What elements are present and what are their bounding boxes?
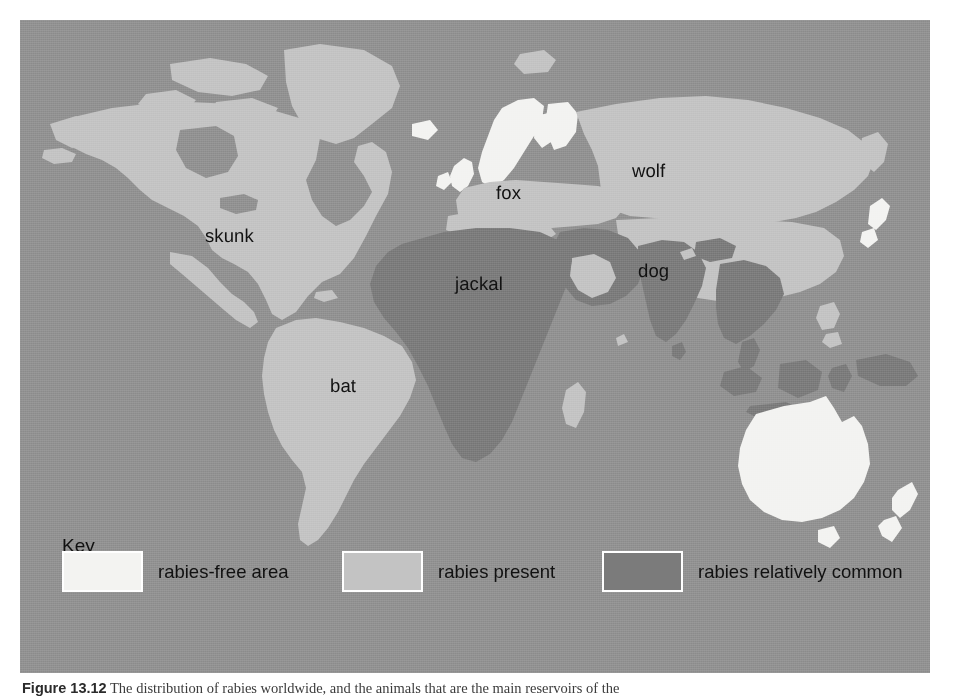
map-label-jackal: jackal xyxy=(455,273,503,295)
legend-swatch-rabies-common xyxy=(602,551,683,592)
legend-swatch-rabies-free xyxy=(62,551,143,592)
legend-label-rabies-present: rabies present xyxy=(438,561,555,583)
map-label-dog: dog xyxy=(638,260,669,282)
figure-caption-label: Figure 13.12 xyxy=(22,680,107,696)
legend-label-rabies-free: rabies-free area xyxy=(158,561,289,583)
map-label-fox: fox xyxy=(496,182,521,204)
legend-swatch-rabies-present xyxy=(342,551,423,592)
world-map: .free { fill:#f3f3f1; } .present { fill:… xyxy=(20,20,930,673)
map-label-wolf: wolf xyxy=(632,160,665,182)
map-label-bat: bat xyxy=(330,375,356,397)
legend-item-rabies-free: rabies-free area xyxy=(62,551,289,592)
legend-item-rabies-present: rabies present xyxy=(342,551,555,592)
figure-caption: Figure 13.12 The distribution of rabies … xyxy=(22,679,934,697)
figure-rabies-distribution: .free { fill:#f3f3f1; } .present { fill:… xyxy=(0,0,955,697)
figure-caption-text: The distribution of rabies worldwide, an… xyxy=(110,680,619,696)
legend-item-rabies-common: rabies relatively common xyxy=(602,551,903,592)
map-label-skunk: skunk xyxy=(205,225,254,247)
legend-label-rabies-common: rabies relatively common xyxy=(698,561,903,583)
